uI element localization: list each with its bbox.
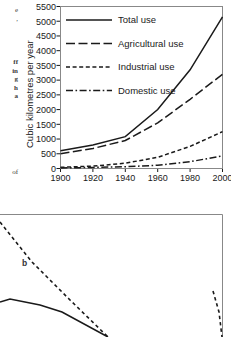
y-tick-marks [57,7,61,169]
y-tick-label: 2000 [36,105,56,115]
legend-label: Agricultural use [118,38,183,49]
y-tick-label: 2500 [36,90,56,100]
series-line-b [213,291,222,337]
x-tick-label: 1960 [148,173,168,183]
x-tick-label: 1940 [115,173,135,183]
legend-label: Domestic use [118,85,176,96]
y-tick-label: 5500 [36,2,56,12]
y-axis-title: Cubic kilometres per year [24,40,35,148]
global-water-use-chart: 0500100015002000250030003500400045005000… [0,0,231,196]
y-tick-label: 1000 [36,134,56,144]
series-line [61,156,223,168]
data-series-group-b [0,222,222,337]
y-tick-label: 1500 [36,120,56,130]
legend-label: Total use [118,14,156,25]
x-tick-label: 2000 [212,173,231,183]
x-tick-marks [61,169,223,173]
chart-legend: Total useAgricultural useIndustrial useD… [66,14,183,96]
x-tick-labels: 190019201940196019802000 [50,173,231,183]
y-tick-labels: 0500100015002000250030003500400045005000… [36,2,56,174]
y-tick-label: 5000 [36,17,56,27]
y-tick-label: 500 [41,149,56,159]
panel-label-b: b [22,258,27,268]
series-line-b [0,299,108,337]
y-tick-label: 3000 [36,75,56,85]
y-tick-label: 4500 [36,31,56,41]
x-tick-label: 1900 [50,173,70,183]
plot-frame-b [0,215,223,337]
legend-label: Industrial use [118,61,175,72]
y-tick-label: 4000 [36,46,56,56]
lower-partial-chart: b [0,200,231,337]
x-tick-label: 1920 [83,173,103,183]
x-tick-label: 1980 [180,173,200,183]
series-line-b [0,222,108,337]
series-line [61,132,223,168]
y-tick-label: 3500 [36,61,56,71]
